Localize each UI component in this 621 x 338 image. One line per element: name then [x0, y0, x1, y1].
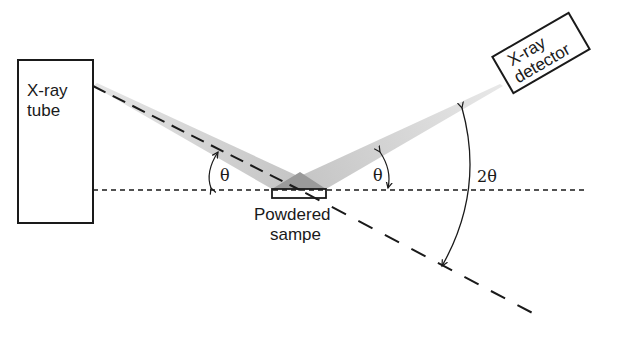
two-theta-label: 2θ	[477, 167, 497, 186]
xray-tube-label-line2: tube	[27, 101, 60, 120]
diffracted-angle-label: θ	[373, 166, 383, 185]
incident-angle-arc	[209, 152, 218, 188]
undiffracted-beam-axis	[300, 190, 542, 318]
incident-angle-label: θ	[220, 166, 230, 185]
xrd-diagram: X-ray tube X-ray detector Powdered sampe…	[0, 0, 621, 338]
sample-label-line1: Powdered	[254, 205, 331, 224]
two-theta-arc	[442, 108, 470, 266]
xray-detector: X-ray detector	[492, 13, 589, 93]
xray-tube-label-line1: X-ray	[27, 81, 68, 100]
sample-label-line2: sampe	[270, 225, 321, 244]
